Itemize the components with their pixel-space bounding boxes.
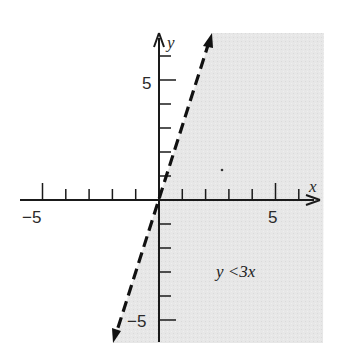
y-axis-label: y	[165, 33, 175, 52]
inequality-graph: −5 5 5 −5 x y y <3x	[0, 0, 338, 360]
y-tick-label-5: 5	[142, 74, 151, 93]
x-tick-label-5: 5	[268, 208, 277, 227]
boundary-arrow-top-icon	[203, 33, 213, 48]
x-tick-label-neg5: −5	[22, 208, 41, 227]
y-tick-label-neg5: −5	[127, 312, 146, 331]
inequality-label: y <3x	[214, 262, 256, 281]
x-axis-label: x	[308, 177, 317, 196]
speck-dot	[221, 169, 224, 172]
